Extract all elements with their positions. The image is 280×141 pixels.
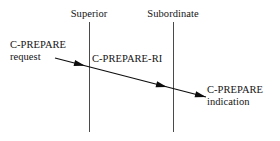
message-label-line2: request <box>10 51 66 63</box>
arrowhead-at-superior <box>74 60 85 66</box>
message-label-c-prepare-ri: C-PREPARE-RI <box>92 53 162 65</box>
lifeline-axis-superior <box>89 22 90 132</box>
message-label-line2: indication <box>207 96 263 108</box>
lifeline-axis-subordinate <box>173 22 174 132</box>
message-arrow-c-prepare-flow <box>0 0 280 141</box>
message-label-c-prepare-indication: C-PREPARE indication <box>207 84 263 107</box>
arrowhead-at-subordinate <box>156 81 167 87</box>
message-label-line1: C-PREPARE <box>10 39 66 50</box>
message-label-line1: C-PREPARE <box>207 84 263 95</box>
arrowhead-at-terminus <box>195 91 206 97</box>
message-label-c-prepare-request: C-PREPARE request <box>10 39 66 62</box>
message-label-line1: C-PREPARE-RI <box>92 53 162 64</box>
lifeline-title-superior: Superior <box>71 8 108 19</box>
sequence-diagram-canvas: Superior Subordinate C-PREPARE request C… <box>0 0 280 141</box>
lifeline-title-subordinate: Subordinate <box>147 8 198 19</box>
